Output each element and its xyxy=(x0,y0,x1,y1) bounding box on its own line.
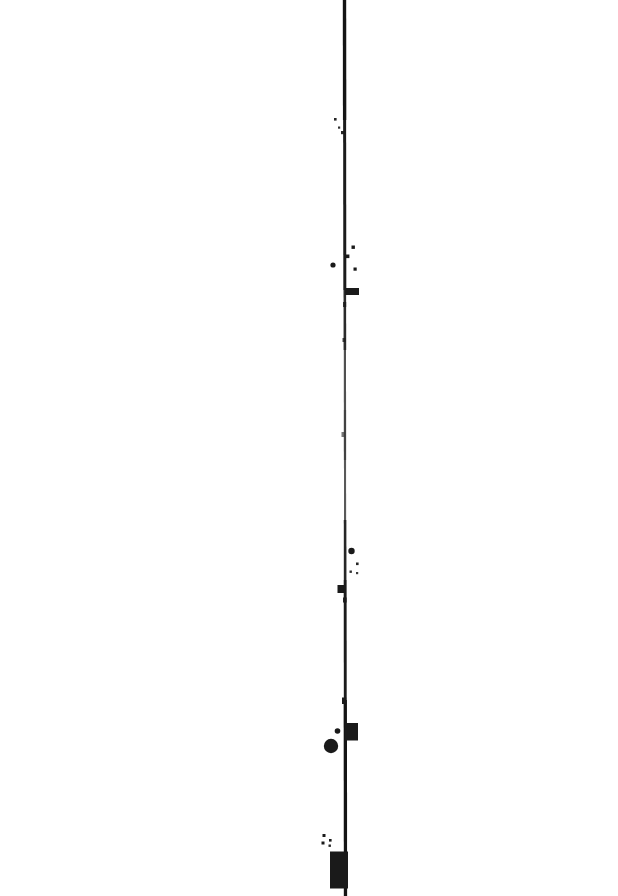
ink-mark-notch-05 xyxy=(344,255,349,259)
ink-mark-speck-22 xyxy=(323,834,326,837)
ink-mark-speck-04 xyxy=(352,246,355,249)
ink-mark-tick-17 xyxy=(343,598,347,603)
scan-page: Scanned page detail Near-vertical dark r… xyxy=(0,0,618,896)
ink-mark-speck-14 xyxy=(350,571,352,573)
scan-artwork-canvas xyxy=(0,0,618,896)
ink-mark-tick-18 xyxy=(342,698,346,705)
scan-artwork-svg xyxy=(0,0,618,896)
ink-mark-blot-06 xyxy=(330,262,335,267)
ink-mark-tick-09 xyxy=(343,302,346,307)
ink-mark-tick-11 xyxy=(342,432,345,437)
paper-background xyxy=(0,0,618,896)
ink-mark-tick-10 xyxy=(343,338,346,342)
ink-mark-speck-01 xyxy=(334,118,337,121)
ink-mark-blot-21 xyxy=(324,739,338,753)
ink-mark-bar-08 xyxy=(345,288,359,295)
ink-mark-block-19 xyxy=(345,723,358,741)
ink-mark-speck-07 xyxy=(354,268,357,271)
ink-mark-speck-15 xyxy=(356,572,358,574)
ink-mark-notch-03 xyxy=(341,131,345,134)
ink-mark-speck-23 xyxy=(329,839,332,842)
ink-mark-speck-25 xyxy=(329,845,331,847)
ink-mark-speck-02 xyxy=(338,127,340,129)
vertical-rule-group xyxy=(345,0,346,896)
ink-mark-block-26 xyxy=(330,852,348,889)
ink-mark-blot-20 xyxy=(335,728,341,734)
ink-mark-speck-24 xyxy=(322,842,325,845)
ink-mark-speck-13 xyxy=(356,563,359,566)
ink-mark-blot-12 xyxy=(348,548,354,554)
ink-mark-block-16 xyxy=(338,585,346,593)
